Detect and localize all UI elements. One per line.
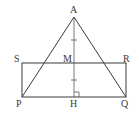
right-angle-mark	[74, 92, 79, 97]
label-h: H	[70, 98, 77, 109]
label-s: S	[14, 53, 20, 64]
segment-aq	[74, 17, 126, 97]
label-r: R	[123, 53, 130, 64]
label-m: M	[63, 53, 72, 64]
label-p: P	[16, 98, 22, 109]
label-q: Q	[121, 98, 129, 109]
label-a: A	[70, 4, 78, 15]
geometry-diagram: A S M R P H Q	[0, 0, 139, 115]
